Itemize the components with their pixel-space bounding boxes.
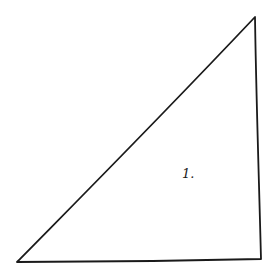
triangle-outline (17, 17, 261, 262)
triangle-figure (0, 0, 278, 274)
triangle-label: 1. (182, 166, 194, 181)
diagram-canvas: 1. (0, 0, 278, 274)
